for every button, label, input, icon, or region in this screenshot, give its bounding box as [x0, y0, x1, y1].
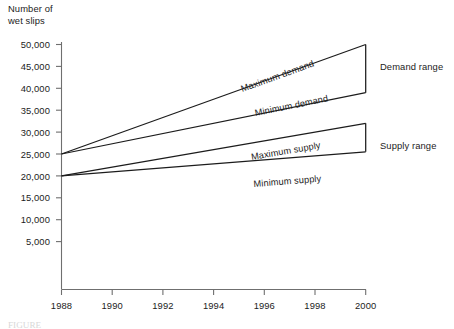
y-axis-ticks — [56, 45, 62, 242]
supply-range-label: Supply range — [380, 140, 436, 151]
figure-caption: FIGURE — [8, 320, 41, 329]
x-tick-label: 1988 — [40, 300, 84, 311]
x-tick-label: 1998 — [293, 300, 337, 311]
y-tick-label: 45,000 — [4, 61, 50, 72]
y-tick-label: 10,000 — [4, 214, 50, 225]
y-tick-label: 5,000 — [4, 236, 50, 247]
x-tick-label: 1990 — [90, 300, 134, 311]
y-tick-label: 30,000 — [4, 127, 50, 138]
chart-plot-area — [0, 0, 454, 329]
x-tick-label: 1996 — [242, 300, 286, 311]
x-axis-ticks — [62, 290, 366, 296]
y-tick-label: 50,000 — [4, 39, 50, 50]
y-tick-label: 20,000 — [4, 171, 50, 182]
x-tick-label: 1994 — [192, 300, 236, 311]
x-tick-label: 1992 — [141, 300, 185, 311]
y-tick-label: 25,000 — [4, 149, 50, 160]
minimum-supply-line — [62, 152, 366, 176]
y-tick-label: 35,000 — [4, 105, 50, 116]
x-tick-label: 2000 — [344, 300, 388, 311]
y-tick-label: 15,000 — [4, 192, 50, 203]
figure-container: Number of wet slips — [0, 0, 454, 329]
y-tick-label: 40,000 — [4, 83, 50, 94]
demand-range-label: Demand range — [380, 61, 443, 72]
